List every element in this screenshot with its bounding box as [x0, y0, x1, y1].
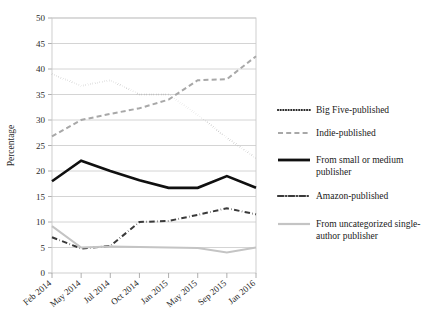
- line-chart: 05101520253035404550Feb 2014May 2014Jul …: [0, 0, 430, 328]
- x-tick-label: Jan 2016: [226, 278, 258, 307]
- legend-label-2-line2: publisher: [316, 167, 352, 177]
- x-tick-label: May 2014: [48, 278, 83, 310]
- legend-label-0: Big Five-published: [316, 105, 389, 115]
- y-tick-label: 25: [36, 141, 46, 151]
- x-tick-label: May 2015: [164, 278, 199, 310]
- y-tick-label: 20: [36, 166, 46, 176]
- legend-label-4: From uncategorized single-: [316, 219, 420, 229]
- y-tick-label: 5: [41, 243, 46, 253]
- legend-label-4-line2: author publisher: [316, 231, 379, 241]
- x-axis-group: Feb 2014May 2014Jul 2014Oct 2014Jan 2015…: [21, 273, 258, 309]
- y-tick-label: 10: [36, 217, 46, 227]
- series-group: [52, 56, 256, 252]
- legend-label-2: From small or medium: [316, 155, 404, 165]
- y-tick-label: 45: [36, 39, 46, 49]
- series-line-1: [52, 56, 256, 136]
- y-tick-label: 15: [36, 192, 46, 202]
- legend: Big Five-publishedIndie-publishedFrom sm…: [278, 105, 420, 241]
- y-tick-label: 0: [41, 268, 46, 278]
- chart-figure: 05101520253035404550Feb 2014May 2014Jul …: [0, 0, 430, 328]
- y-tick-label: 30: [36, 115, 46, 125]
- y-axis-title: Percentage: [6, 125, 16, 167]
- x-tick-label: Jul 2014: [82, 278, 112, 306]
- y-tick-label: 35: [36, 90, 46, 100]
- legend-label-3: Amazon-published: [316, 191, 389, 201]
- x-tick-label: Oct 2014: [109, 278, 141, 307]
- legend-label-1: Indie-published: [316, 128, 376, 138]
- y-tick-label: 50: [36, 13, 46, 23]
- x-tick-label: Sep 2015: [196, 278, 229, 308]
- y-tick-label: 40: [36, 64, 46, 74]
- series-line-3: [52, 208, 256, 248]
- series-line-2: [52, 161, 256, 188]
